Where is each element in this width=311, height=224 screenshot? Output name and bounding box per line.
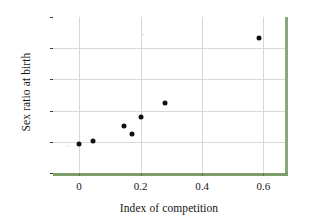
data-point xyxy=(256,36,261,41)
y-axis-tick-mark xyxy=(50,79,53,80)
x-axis-tick-mark xyxy=(202,173,203,176)
x-axis-tick-label: 0.6 xyxy=(243,180,283,192)
gridline-horizontal xyxy=(53,79,285,80)
paper-speckle xyxy=(141,33,144,36)
data-point xyxy=(163,101,168,106)
gridline-horizontal xyxy=(53,142,285,143)
x-axis-tick-label: 0 xyxy=(59,180,99,192)
scatter-chart-figure: Sex ratio at birth Index of competition … xyxy=(0,0,311,224)
plot-area xyxy=(53,17,285,173)
gridline-horizontal xyxy=(53,48,285,49)
plot-frame-right-accent xyxy=(285,17,288,176)
paper-speckle xyxy=(67,145,69,147)
x-axis-tick-mark xyxy=(79,173,80,176)
gridline-vertical xyxy=(263,17,264,172)
data-point xyxy=(138,114,143,119)
data-point xyxy=(129,132,134,137)
y-axis-tick-mark xyxy=(50,142,53,143)
x-axis-tick-label: 0.2 xyxy=(121,180,161,192)
y-axis-tick-mark xyxy=(50,111,53,112)
gridline-vertical xyxy=(202,17,203,172)
y-axis-title: Sex ratio at birth xyxy=(20,22,32,162)
y-axis-tick-mark xyxy=(50,173,53,174)
x-axis-tick-mark xyxy=(141,173,142,176)
gridline-vertical xyxy=(141,17,142,172)
gridline-horizontal xyxy=(53,111,285,112)
data-point xyxy=(121,124,126,129)
x-axis-tick-mark xyxy=(263,173,264,176)
y-axis-tick-mark xyxy=(50,17,53,18)
x-axis-title: Index of competition xyxy=(53,202,285,214)
y-axis-tick-mark xyxy=(50,48,53,49)
gridline-vertical xyxy=(79,17,80,172)
data-point xyxy=(91,138,96,143)
data-point xyxy=(77,141,82,146)
x-axis-tick-label: 0.4 xyxy=(182,180,222,192)
